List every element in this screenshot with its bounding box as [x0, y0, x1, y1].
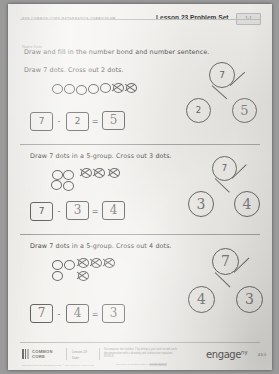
subtrahend-value: 2 — [67, 113, 88, 130]
page-footer: COMMON CORE Lesson 23: Date: Decompose t… — [20, 344, 260, 368]
engage-word: engage — [206, 349, 241, 360]
subtrahend-value: 3 — [67, 202, 88, 219]
dot-open — [88, 84, 99, 94]
minuend-value: 7 — [31, 203, 52, 220]
problem-divider-1 — [20, 144, 260, 145]
dot-open — [52, 260, 63, 270]
bond-part-right-node[interactable]: 3 — [236, 286, 263, 313]
bond-part-right-node[interactable]: 5 — [232, 98, 257, 123]
attribution-note: This work is derived from Eureka Math ™ … — [22, 364, 95, 366]
bond-part-left-node[interactable]: 4 — [188, 286, 215, 313]
common-core-logo-icon — [22, 349, 30, 359]
header-divider — [20, 19, 260, 20]
answer-box-difference[interactable]: 5 — [102, 111, 125, 130]
difference-value: 5 — [103, 112, 124, 129]
minus-operator: - — [55, 117, 63, 126]
answer-box-difference[interactable]: 4 — [102, 201, 125, 220]
page-header: NYS COMMON CORE MATHEMATICS CURRICULUM L… — [8, 14, 272, 30]
answer-box-minuend[interactable]: 7 — [30, 112, 53, 131]
bond-part-right-value: 5 — [233, 99, 256, 122]
footer-separator-1 — [66, 348, 67, 360]
dot-open — [63, 181, 74, 191]
problem-2-prompt: Draw 7 dots in a 5-group. Cross out 3 do… — [30, 152, 172, 160]
dot-open — [100, 83, 111, 93]
cross-out-mark — [111, 81, 123, 92]
problem-3-prompt: Draw 7 dots in a 5-group. Cross out 4 do… — [30, 242, 172, 250]
cross-out-mark — [124, 81, 136, 92]
bond-part-right-value: 3 — [237, 287, 262, 312]
answer-box-minuend[interactable]: 7 — [30, 304, 53, 323]
footer-separator-2 — [99, 348, 100, 360]
answer-box-minuend[interactable]: 7 — [30, 202, 53, 221]
minus-operator: - — [55, 310, 63, 319]
footer-description: Decompose the number 7 by listing a part… — [104, 348, 184, 359]
footer-description-text: Decompose the number 7 by listing a part… — [104, 348, 184, 355]
answer-box-difference[interactable]: 3 — [102, 304, 125, 323]
footer-lesson-info: Lesson 23: Date: — [72, 349, 88, 361]
dot-open — [51, 180, 62, 190]
cross-out-mark — [102, 256, 114, 267]
engageny-logo: engageny — [206, 349, 248, 360]
worksheet-page: NYS COMMON CORE MATHEMATICS CURRICULUM L… — [8, 4, 272, 370]
answer-box-subtrahend[interactable]: 4 — [66, 304, 89, 323]
equals-operator: = — [91, 310, 99, 319]
subtrahend-value: 4 — [67, 305, 88, 322]
cross-out-mark — [76, 269, 88, 280]
bond-part-right-node[interactable]: 4 — [234, 191, 260, 217]
dot-open — [52, 271, 63, 281]
bond-part-left-value: 4 — [189, 287, 214, 312]
problem-1-prompt: Draw 7 dots. Cross out 2 dots. — [24, 66, 124, 74]
minuend-value: 7 — [31, 305, 52, 322]
footer-date-label: Date: — [72, 355, 88, 361]
footer-date-value: 8/19/13 — [104, 355, 184, 359]
cross-out-mark — [92, 166, 104, 177]
dot-open — [52, 170, 63, 180]
equals-operator: = — [91, 207, 99, 216]
bond-part-right-value: 4 — [235, 192, 259, 216]
dot-open — [52, 84, 63, 94]
cross-out-mark — [107, 166, 119, 177]
cross-out-mark — [76, 256, 88, 267]
footer-divider — [20, 342, 260, 343]
cross-out-mark — [79, 166, 91, 177]
main-instruction: Draw and fill in the number bond and num… — [24, 48, 209, 56]
cross-out-mark — [89, 256, 101, 267]
common-core-line-2: CORE — [32, 354, 53, 359]
problem-divider-2 — [20, 234, 260, 235]
license-text: This work is licensed under a — [116, 363, 148, 366]
bond-part-left-value: 3 — [189, 192, 213, 216]
equals-operator: = — [91, 117, 99, 126]
difference-value: 3 — [103, 305, 124, 322]
answer-box-subtrahend[interactable]: 3 — [66, 201, 89, 220]
dot-open — [63, 170, 74, 180]
minuend-value: 7 — [31, 113, 52, 130]
bond-part-left-node[interactable]: 3 — [188, 191, 214, 217]
dot-open — [76, 85, 87, 95]
page-number: 4.D.6 — [258, 353, 266, 357]
dot-open — [64, 84, 75, 94]
bond-part-left-node[interactable]: 2 — [186, 98, 211, 123]
difference-value: 4 — [103, 202, 124, 219]
name-date-line: Name Date — [22, 34, 260, 42]
minus-operator: - — [55, 207, 63, 216]
license-line: This work is licensed under a CC BY-NC-S… — [116, 363, 167, 366]
common-core-label: COMMON CORE — [32, 349, 53, 359]
bond-part-left-value: 2 — [187, 99, 210, 122]
answer-box-subtrahend[interactable]: 2 — [66, 112, 89, 131]
license-badge: CC BY-NC-SA — [149, 363, 167, 366]
engage-ny-suffix: ny — [241, 349, 248, 355]
dot-open — [64, 260, 75, 270]
